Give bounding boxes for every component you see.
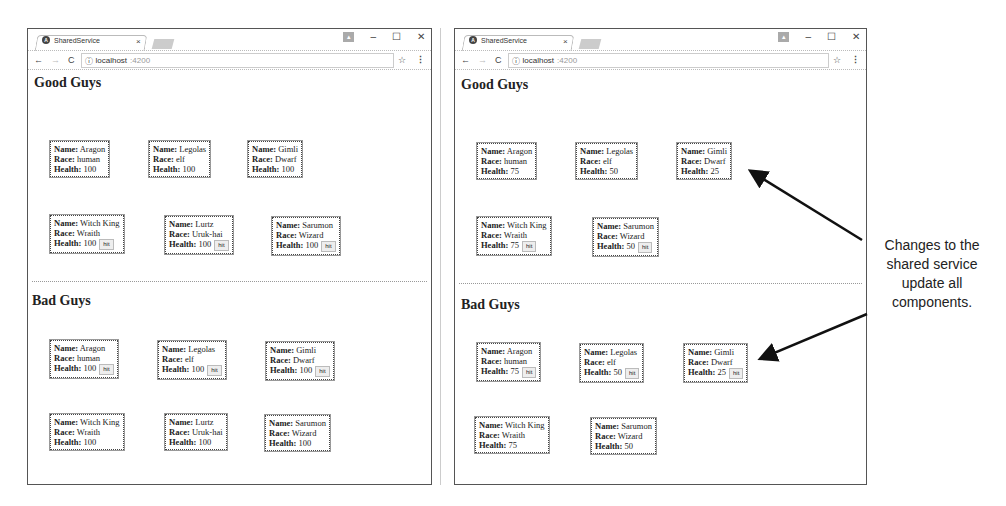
bad-guys-heading: Bad Guys bbox=[461, 297, 520, 313]
maximize-button[interactable]: ☐ bbox=[392, 31, 401, 42]
character-card: Name: Lurtz Race: Uruk-hai Health: 100hi… bbox=[165, 216, 233, 254]
forward-arrow-icon[interactable]: → bbox=[478, 55, 487, 65]
character-card: Name: Witch King Race: Wraith Health: 75… bbox=[477, 217, 551, 255]
minimize-button[interactable]: – bbox=[805, 31, 811, 42]
character-card: Name: Gimli Race: Dwarf Health: 100hit bbox=[266, 342, 334, 380]
section-divider bbox=[459, 283, 862, 284]
profile-icon[interactable]: ▴ bbox=[778, 32, 789, 42]
character-card: Name: Legolas Race: elf Health: 50 bbox=[576, 143, 637, 179]
page-content: Good Guys Name: Aragon Race: human Healt… bbox=[28, 69, 431, 484]
forward-arrow-icon[interactable]: → bbox=[51, 55, 60, 65]
hit-button[interactable]: hit bbox=[99, 364, 113, 375]
hit-button[interactable]: hit bbox=[522, 241, 536, 252]
hit-button[interactable]: hit bbox=[315, 366, 329, 377]
browser-window-left: A SharedService × ▴ – ☐ ✕ ← → C ⓘ localh… bbox=[27, 28, 432, 485]
annotation-text: Changes to the shared service update all… bbox=[862, 236, 1002, 312]
hit-button[interactable]: hit bbox=[638, 242, 652, 253]
character-card: Name: Witch King Race: Wraith Health: 75 bbox=[475, 417, 549, 453]
hit-button[interactable]: hit bbox=[522, 367, 536, 378]
menu-kebab-icon[interactable]: ⋮ bbox=[416, 55, 425, 65]
character-card: Name: Gimli Race: Dwarf Health: 25hit bbox=[684, 344, 747, 382]
character-card: Name: Sarumon Race: Wizard Health: 50 bbox=[591, 418, 656, 454]
maximize-button[interactable]: ☐ bbox=[827, 31, 836, 42]
section-divider bbox=[32, 281, 427, 282]
title-bar: A SharedService × ▴ – ☐ ✕ bbox=[455, 29, 866, 50]
tab-close-icon[interactable]: × bbox=[136, 37, 141, 46]
new-tab-button[interactable] bbox=[579, 39, 602, 49]
window-controls: ▴ – ☐ ✕ bbox=[343, 31, 425, 42]
character-card: Name: Aragon Race: human Health: 75hit bbox=[477, 343, 540, 381]
tab-title: SharedService bbox=[54, 37, 100, 44]
address-bar-row: ← → C ⓘ localhost:4200 ☆ ⋮ bbox=[28, 50, 431, 70]
profile-icon[interactable]: ▴ bbox=[343, 32, 354, 42]
character-card: Name: Sarumon Race: Wizard Health: 50hit bbox=[593, 218, 658, 256]
page-content: Good Guys Name: Aragon Race: human Healt… bbox=[455, 69, 866, 484]
hit-button[interactable]: hit bbox=[207, 365, 221, 376]
close-window-button[interactable]: ✕ bbox=[852, 31, 860, 42]
minimize-button[interactable]: – bbox=[370, 31, 376, 42]
angular-favicon-icon: A bbox=[42, 36, 50, 44]
info-icon[interactable]: ⓘ bbox=[512, 55, 520, 66]
url-host: localhost bbox=[96, 56, 128, 65]
title-bar: A SharedService × ▴ – ☐ ✕ bbox=[28, 29, 431, 50]
character-card: Name: Legolas Race: elf Health: 100 bbox=[149, 141, 210, 177]
hit-button[interactable]: hit bbox=[625, 368, 639, 379]
good-guys-heading: Good Guys bbox=[34, 75, 101, 91]
back-arrow-icon[interactable]: ← bbox=[34, 55, 43, 65]
angular-favicon-icon: A bbox=[469, 36, 477, 44]
character-card: Name: Legolas Race: elf Health: 100hit bbox=[158, 341, 226, 379]
character-card: Name: Aragon Race: human Health: 100hit bbox=[50, 340, 118, 378]
hit-button[interactable]: hit bbox=[729, 368, 743, 379]
character-card: Name: Legolas Race: elf Health: 50hit bbox=[580, 344, 643, 382]
close-window-button[interactable]: ✕ bbox=[417, 31, 425, 42]
browser-window-right: A SharedService × ▴ – ☐ ✕ ← → C ⓘ localh… bbox=[454, 28, 867, 485]
menu-kebab-icon[interactable]: ⋮ bbox=[851, 55, 860, 65]
back-arrow-icon[interactable]: ← bbox=[461, 55, 470, 65]
character-card: Name: Aragon Race: human Health: 100 bbox=[50, 141, 109, 177]
character-card: Name: Sarumon Race: Wizard Health: 100 bbox=[265, 415, 330, 451]
character-card: Name: Sarumon Race: Wizard Health: 100hi… bbox=[272, 217, 340, 255]
character-card: Name: Aragon Race: human Health: 75 bbox=[477, 143, 536, 179]
character-card: Name: Gimli Race: Dwarf Health: 25 bbox=[677, 143, 731, 179]
tab-label-group: A SharedService bbox=[469, 36, 527, 44]
address-bar-row: ← → C ⓘ localhost:4200 ☆ ⋮ bbox=[455, 50, 866, 70]
tab-title: SharedService bbox=[481, 37, 527, 44]
bookmark-star-icon[interactable]: ☆ bbox=[833, 55, 841, 65]
hit-button[interactable]: hit bbox=[321, 241, 335, 252]
reload-icon[interactable]: C bbox=[68, 55, 75, 65]
character-card: Name: Witch King Race: Wraith Health: 10… bbox=[50, 215, 124, 253]
info-icon[interactable]: ⓘ bbox=[85, 55, 93, 66]
reload-icon[interactable]: C bbox=[495, 55, 502, 65]
character-card: Name: Lurtz Race: Uruk-hai Health: 100 bbox=[165, 414, 227, 450]
hit-button[interactable]: hit bbox=[99, 239, 113, 250]
good-guys-heading: Good Guys bbox=[461, 77, 528, 93]
url-input[interactable]: ⓘ localhost:4200 bbox=[508, 53, 830, 68]
window-gap-divider bbox=[440, 28, 441, 485]
window-controls: ▴ – ☐ ✕ bbox=[778, 31, 860, 42]
hit-button[interactable]: hit bbox=[214, 240, 228, 251]
url-input[interactable]: ⓘ localhost:4200 bbox=[81, 53, 395, 68]
character-card: Name: Gimli Race: Dwarf Health: 100 bbox=[248, 141, 302, 177]
new-tab-button[interactable] bbox=[152, 39, 175, 49]
url-port: :4200 bbox=[130, 56, 150, 65]
character-card: Name: Witch King Race: Wraith Health: 10… bbox=[50, 414, 124, 450]
bookmark-star-icon[interactable]: ☆ bbox=[398, 55, 406, 65]
url-host: localhost bbox=[523, 56, 555, 65]
tab-close-icon[interactable]: × bbox=[563, 37, 568, 46]
bad-guys-heading: Bad Guys bbox=[32, 293, 91, 309]
url-port: :4200 bbox=[557, 56, 577, 65]
tab-label-group: A SharedService bbox=[42, 36, 100, 44]
